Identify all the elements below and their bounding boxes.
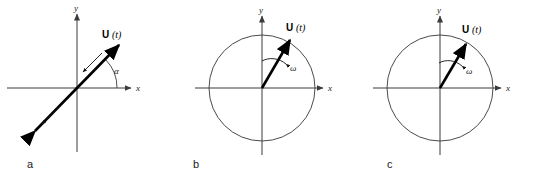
vector-label-arg-c: (t): [472, 24, 482, 36]
vector-label-arg-a: (t): [112, 29, 122, 41]
y-axis-label-b: y: [258, 5, 263, 15]
vector-label-b: U: [286, 22, 293, 33]
y-axis-label-c: y: [436, 5, 441, 15]
x-axis-label-b: x: [327, 83, 332, 93]
panel-c: x y U (t) ω: [356, 0, 534, 178]
vector-label-a: U: [102, 29, 109, 40]
angle-label-alpha-a: α: [114, 66, 119, 76]
panel-a: x y U (t) α: [0, 0, 178, 178]
y-axis-label-a: y: [73, 3, 78, 13]
polarization-figure: x y U (t) α: [0, 0, 534, 178]
omega-label-b: ω: [290, 63, 296, 73]
vector-label-arg-b: (t): [296, 22, 306, 34]
x-axis-label-c: x: [505, 83, 510, 93]
motion-arrow-upper-a: [83, 53, 102, 72]
vector-label-c: U: [462, 24, 469, 35]
x-axis-label-a: x: [135, 83, 140, 93]
omega-label-c: ω: [466, 66, 472, 76]
polarization-vector-c: [440, 44, 466, 88]
motion-arrow-lower-a: [42, 106, 60, 124]
rotation-arrow-b: [262, 59, 286, 64]
panel-b: x y U (t) ω: [178, 0, 356, 178]
panel-letter-c: c: [387, 158, 393, 170]
panel-letter-a: a: [27, 158, 33, 170]
panel-letter-b: b: [193, 158, 199, 170]
rotation-arrow-c: [439, 61, 462, 66]
